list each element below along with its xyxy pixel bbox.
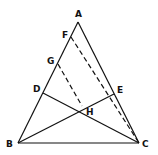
label-E: E <box>117 85 123 95</box>
dashed-segment-GH <box>58 64 82 106</box>
label-C: C <box>142 139 149 149</box>
segment-AB <box>18 22 78 143</box>
dashed-segment-FC <box>71 37 139 143</box>
label-B: B <box>6 139 13 149</box>
geometry-diagram: A B C D E F G H <box>0 0 158 155</box>
segment-AC <box>78 22 139 143</box>
label-G: G <box>47 56 54 66</box>
label-H: H <box>86 107 94 117</box>
label-D: D <box>33 84 40 94</box>
segment-DC <box>43 93 139 143</box>
segment-BE <box>18 94 114 143</box>
label-F: F <box>62 30 68 40</box>
label-A: A <box>75 9 82 19</box>
